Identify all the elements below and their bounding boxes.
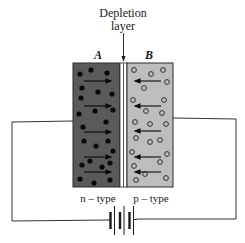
region-a-letter: A [93, 48, 102, 62]
n-type-label: n – type [80, 192, 116, 204]
pn-junction-diagram: Depletion layer A B [0, 0, 245, 243]
p-type-region [127, 63, 173, 187]
depletion-label-line1: Depletion [99, 6, 146, 20]
depletion-layer [120, 63, 127, 187]
region-b-letter: B [144, 48, 153, 62]
p-type-label: p – type [133, 192, 169, 204]
down-arrow-icon [122, 33, 126, 62]
depletion-label-line2: layer [111, 19, 135, 33]
n-type-region [73, 63, 120, 187]
battery-icon [108, 206, 137, 235]
